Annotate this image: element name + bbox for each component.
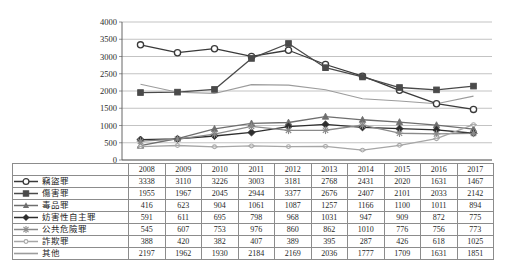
data-cell: 287	[348, 236, 385, 248]
year-header-2011: 2011	[238, 164, 275, 176]
data-cell: 1777	[348, 248, 385, 260]
marker-傷害罪	[471, 83, 477, 89]
data-cell: 862	[311, 224, 348, 236]
marker-竊盜罪	[433, 101, 439, 107]
legend-item-5[interactable]: 公共危險罪	[13, 224, 129, 236]
year-header-2013: 2013	[311, 164, 348, 176]
legend-marker-icon	[13, 188, 39, 199]
ytick-label-2500: 2500	[100, 69, 117, 79]
data-cell: 775	[457, 212, 494, 224]
table-header-row: 2008200920102011201220132014201520162017	[13, 164, 494, 176]
data-cell: 976	[238, 224, 275, 236]
year-header-2015: 2015	[384, 164, 421, 176]
marker-傷害罪	[286, 41, 292, 47]
year-header-2017: 2017	[457, 164, 494, 176]
data-cell: 416	[129, 200, 166, 212]
data-cell: 607	[165, 224, 202, 236]
ytick-label-500: 500	[104, 138, 117, 148]
year-header-2008: 2008	[129, 164, 166, 176]
data-cell: 909	[384, 212, 421, 224]
data-cell: 1257	[311, 200, 348, 212]
data-cell: 776	[384, 224, 421, 236]
marker-傷害罪	[212, 87, 218, 93]
data-cell: 389	[275, 236, 312, 248]
data-cell: 968	[275, 212, 312, 224]
data-cell: 2676	[311, 188, 348, 200]
legend-marker-icon	[13, 224, 39, 235]
data-cell: 695	[202, 212, 239, 224]
data-cell: 2045	[202, 188, 239, 200]
ytick-label-4000: 4000	[100, 17, 117, 27]
marker-傷害罪	[360, 74, 366, 80]
marker-竊盜罪	[285, 47, 291, 53]
data-table-container: 2008200920102011201220132014201520162017…	[12, 163, 493, 260]
ytick-label-3500: 3500	[100, 34, 117, 44]
legend-item-1[interactable]: 竊盜罪	[13, 176, 129, 188]
marker-傷害罪	[138, 90, 144, 96]
table-row: 詐欺罪3884203824073893952874266181025	[13, 236, 494, 248]
year-header-2016: 2016	[421, 164, 458, 176]
data-cell: 1011	[421, 200, 458, 212]
legend-marker-icon	[13, 200, 39, 211]
data-cell: 756	[421, 224, 458, 236]
data-cell: 382	[202, 236, 239, 248]
legend-marker	[23, 191, 28, 196]
data-cell: 2020	[384, 176, 421, 188]
data-cell: 3338	[129, 176, 166, 188]
data-cell: 545	[129, 224, 166, 236]
data-table: 2008200920102011201220132014201520162017…	[12, 163, 494, 260]
data-cell: 872	[421, 212, 458, 224]
table-row: 其他21971962193021842169203617771709163118…	[13, 248, 494, 260]
data-cell: 1031	[311, 212, 348, 224]
data-cell: 1010	[348, 224, 385, 236]
data-cell: 3377	[275, 188, 312, 200]
line-chart: 05001000150020002500300035004000	[0, 0, 506, 165]
data-cell: 860	[275, 224, 312, 236]
legend-marker-icon	[13, 248, 39, 259]
data-cell: 395	[311, 236, 348, 248]
marker-傷害罪	[175, 89, 181, 95]
legend-marker	[24, 240, 28, 244]
legend-item-3[interactable]: 毒品罪	[13, 200, 129, 212]
data-cell: 773	[457, 224, 494, 236]
marker-傷害罪	[397, 85, 403, 91]
data-cell: 753	[202, 224, 239, 236]
legend-label: 其他	[42, 248, 60, 259]
legend-item-2[interactable]: 傷害罪	[13, 188, 129, 200]
marker-傷害罪	[249, 56, 255, 62]
year-header-2014: 2014	[348, 164, 385, 176]
table-row: 公共危險罪5456077539768608621010776756773	[13, 224, 494, 236]
year-header-2009: 2009	[165, 164, 202, 176]
data-cell: 1631	[421, 248, 458, 260]
legend-item-6[interactable]: 詐欺罪	[13, 236, 129, 248]
table-row: 毒品罪416623904106110871257116611001011894	[13, 200, 494, 212]
table-head: 2008200920102011201220132014201520162017	[13, 164, 494, 176]
data-cell: 1467	[457, 176, 494, 188]
data-cell: 904	[202, 200, 239, 212]
data-cell: 420	[165, 236, 202, 248]
table-row: 傷害罪1955196720452944337726762407210120332…	[13, 188, 494, 200]
legend-item-4[interactable]: 妨害性自主罪	[13, 212, 129, 224]
legend-item-7[interactable]: 其他	[13, 248, 129, 260]
data-cell: 1087	[275, 200, 312, 212]
chart-page: 05001000150020002500300035004000 2008200…	[0, 0, 506, 261]
table-row: 竊盜罪3338311032263003318127682431202016311…	[13, 176, 494, 188]
data-cell: 2036	[311, 248, 348, 260]
legend-marker-icon	[13, 176, 39, 187]
legend-marker	[23, 179, 29, 185]
data-cell: 2431	[348, 176, 385, 188]
ytick-label-3000: 3000	[100, 52, 117, 62]
data-cell: 947	[348, 212, 385, 224]
data-cell: 2944	[238, 188, 275, 200]
data-cell: 2169	[275, 248, 312, 260]
marker-竊盜罪	[137, 42, 143, 48]
chart-svg: 05001000150020002500300035004000	[0, 0, 506, 165]
data-cell: 2184	[238, 248, 275, 260]
legend-label: 毒品罪	[42, 200, 69, 211]
ytick-label-1500: 1500	[100, 103, 117, 113]
legend-marker	[23, 214, 30, 221]
data-cell: 623	[165, 200, 202, 212]
data-cell: 426	[384, 236, 421, 248]
data-cell: 2142	[457, 188, 494, 200]
data-cell: 894	[457, 200, 494, 212]
